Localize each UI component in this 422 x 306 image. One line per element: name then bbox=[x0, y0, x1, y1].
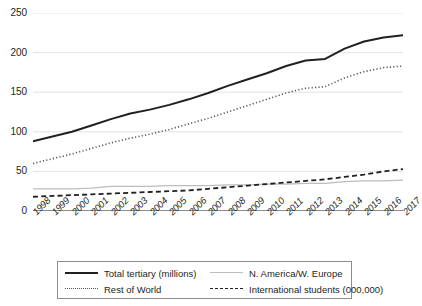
legend-entry-rest-of-world: Rest of World bbox=[65, 281, 161, 297]
legend-swatch-dotted-icon bbox=[65, 284, 98, 294]
legend-row: Total tertiary (millions) N. America/W. … bbox=[58, 265, 351, 281]
y-axis-tick-label: 50 bbox=[16, 166, 27, 176]
y-axis-tick-label: 100 bbox=[11, 127, 27, 137]
legend-label: N. America/W. Europe bbox=[249, 268, 342, 279]
legend-entry-n-america-w-europe: N. America/W. Europe bbox=[210, 265, 342, 281]
y-axis: 050100150200250 bbox=[0, 0, 31, 220]
legend-row: Rest of World International students (00… bbox=[58, 281, 351, 297]
x-axis: 1998199920002001200220032004200520062007… bbox=[33, 210, 405, 254]
plot-svg bbox=[33, 13, 403, 211]
y-axis-tick-label: 150 bbox=[11, 87, 27, 97]
legend-label: Rest of World bbox=[104, 284, 161, 295]
x-axis-tick-label: 2017 bbox=[401, 196, 422, 217]
legend-entry-international-students: International students (000,000) bbox=[210, 281, 383, 297]
chart-legend: Total tertiary (millions) N. America/W. … bbox=[57, 261, 352, 299]
plot-area bbox=[33, 13, 403, 211]
legend-swatch-dashed-icon bbox=[210, 284, 243, 294]
y-axis-tick-label: 200 bbox=[11, 48, 27, 58]
series-line-0 bbox=[33, 35, 403, 141]
legend-swatch-solid-icon bbox=[65, 268, 98, 278]
y-axis-tick-label: 0 bbox=[22, 206, 27, 216]
series-line-3 bbox=[33, 169, 403, 197]
legend-label: International students (000,000) bbox=[249, 284, 383, 295]
legend-label: Total tertiary (millions) bbox=[104, 268, 196, 279]
y-axis-tick-label: 250 bbox=[11, 8, 27, 18]
legend-swatch-thin-solid-icon bbox=[210, 268, 243, 278]
legend-entry-total-tertiary: Total tertiary (millions) bbox=[65, 265, 196, 281]
series-line-1 bbox=[33, 66, 403, 163]
